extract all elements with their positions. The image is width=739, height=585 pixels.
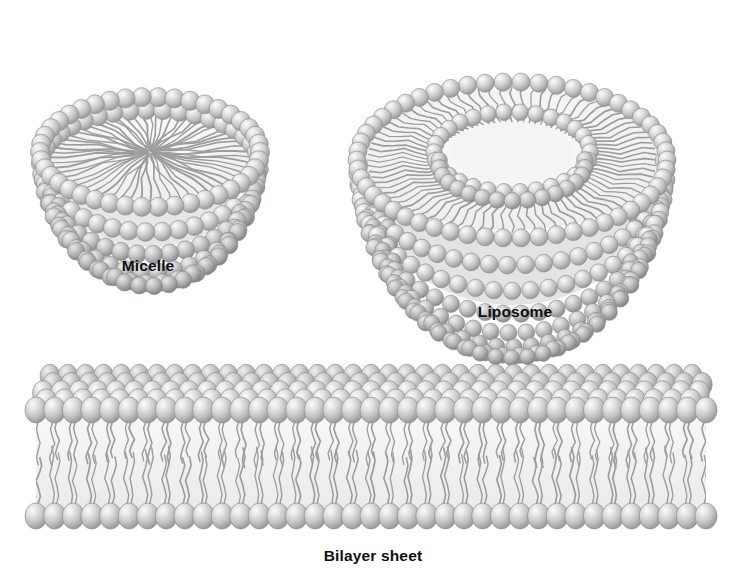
micelle-head-group (169, 220, 188, 239)
liposome-head-group (569, 247, 587, 265)
bilayer-upper-leaflet-head-groups (25, 364, 717, 423)
liposome-outer-rim-head-group (442, 223, 460, 241)
liposome-head-group (520, 349, 536, 365)
micelle-head-group (120, 221, 139, 240)
liposome-structure (348, 73, 676, 366)
micelle-head-group (153, 222, 172, 241)
liposome-inner-compartment (450, 122, 574, 182)
figure-root: Micelle Liposome Bilayer sheet (0, 0, 739, 585)
liposome-outer-rim-head-group (581, 219, 599, 237)
liposome-head-group (472, 345, 488, 361)
liposome-head-group (590, 264, 607, 281)
bilayer-sheet-structure (25, 364, 717, 529)
liposome-outer-rim-head-group (530, 74, 548, 92)
liposome-outer-rim-head-group (476, 74, 494, 92)
liposome-outer-rim-head-group (476, 228, 494, 246)
liposome-inner-head-group (528, 106, 545, 123)
liposome-head-group (574, 270, 591, 287)
bilayer-lower-head-group (695, 503, 717, 529)
liposome-outer-rim-head-group (494, 229, 512, 247)
liposome-head-group (485, 281, 502, 298)
bilayer-lower-tail (30, 458, 36, 504)
micelle-rim-head-group (132, 197, 151, 216)
liposome-inner-head-group (474, 189, 491, 206)
liposome-outer-rim-head-group (459, 76, 477, 94)
liposome-outer-rim-head-group (530, 228, 548, 246)
micelle-head-group (176, 241, 194, 259)
liposome-inner-head-group (534, 189, 551, 206)
liposome-head-group (429, 245, 447, 263)
liposome-inner-head-group (496, 104, 513, 121)
liposome-outer-rim-head-group (442, 79, 460, 97)
liposome-head-group (504, 350, 520, 366)
liposome-outer-rim-head-group (564, 79, 582, 97)
liposome-inner-head-group (489, 192, 506, 209)
liposome-head-group (449, 276, 466, 293)
liposome-outer-rim-head-group (547, 226, 565, 244)
liposome-head-group (445, 250, 463, 268)
micelle-head-group (136, 223, 155, 242)
liposome-label: Liposome (478, 304, 552, 320)
liposome-head-group (535, 346, 551, 362)
liposome-outer-rim-head-group (459, 226, 477, 244)
liposome-inner-head-group (519, 192, 536, 209)
lipid-structures-diagram (0, 0, 739, 585)
micelle-head-group (185, 217, 204, 236)
liposome-outer-rim-head-group (512, 229, 530, 247)
liposome-head-group (413, 239, 431, 257)
liposome-head-group (522, 281, 539, 298)
liposome-head-group (503, 282, 520, 299)
micelle-head-group (103, 219, 122, 238)
liposome-outer-rim-head-group (564, 223, 582, 241)
liposome-head-group (498, 256, 516, 274)
liposome-outer-rim-head-group (426, 219, 444, 237)
bilayer-lower-tail (706, 447, 710, 504)
micelle-head-group (160, 276, 177, 293)
liposome-head-group (480, 255, 498, 273)
bilayer-upper-tail (30, 422, 36, 458)
micelle-head-group (116, 274, 133, 291)
liposome-head-group (417, 264, 434, 281)
liposome-inner-head-group (512, 104, 529, 121)
liposome-head-group (467, 279, 484, 296)
liposome-inner-head-group (480, 106, 497, 123)
liposome-outer-rim-head-group (512, 73, 530, 91)
liposome-inner-head-group (504, 193, 521, 210)
bilayer-upper-head-group (695, 397, 717, 423)
liposome-head-group (535, 254, 553, 272)
liposome-head-group (565, 295, 582, 312)
liposome-head-group (488, 349, 504, 365)
liposome-head-group (581, 289, 598, 306)
liposome-head-group (517, 256, 535, 274)
liposome-outer-rim-head-group (547, 76, 565, 94)
liposome-head-group (552, 252, 570, 270)
liposome-outer-rim-head-group (494, 73, 512, 91)
liposome-head-group (433, 270, 450, 287)
bilayer-upper-tail (706, 422, 710, 457)
liposome-head-group (459, 300, 476, 317)
bilayer-sheet-label: Bilayer sheet (324, 548, 422, 564)
liposome-head-group (557, 275, 574, 292)
liposome-head-group (462, 253, 480, 271)
bilayer-lower-leaflet-head-groups (25, 503, 717, 529)
liposome-head-group (585, 242, 603, 260)
micelle-head-group (145, 278, 162, 295)
micelle-label: Micelle (122, 258, 175, 274)
liposome-head-group (540, 279, 557, 296)
